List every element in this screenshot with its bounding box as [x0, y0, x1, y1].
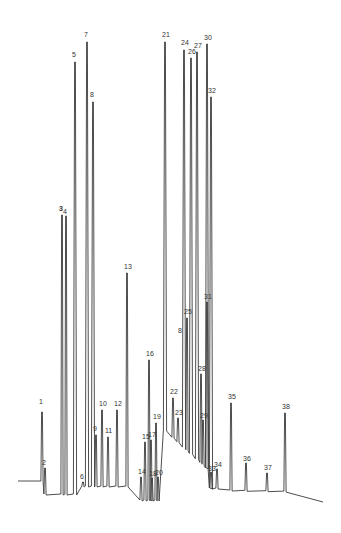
peak-label-6: 6 [80, 473, 84, 480]
peak-label-10: 10 [99, 400, 107, 407]
peak-label-23: 23 [175, 409, 183, 416]
peak-label-20: 20 [155, 469, 163, 476]
peak-label-13: 13 [124, 263, 132, 270]
chromatogram-trace [18, 42, 323, 502]
peak-label-11: 11 [105, 427, 112, 434]
peak-label-32: 32 [208, 87, 216, 94]
peak-label-1: 1 [39, 398, 43, 405]
peak-label-34: 34 [214, 461, 222, 468]
peak-label-21: 21 [162, 31, 170, 38]
peak-label-31: 31 [204, 293, 212, 300]
peak-label-7: 7 [84, 31, 88, 38]
peak-label-24: 24 [181, 39, 189, 46]
peak-label-35: 35 [228, 393, 236, 400]
peak-label-5: 5 [72, 51, 76, 58]
peak-label-8: 8 [90, 91, 94, 98]
peak-label-17: 17 [148, 431, 156, 438]
peak-label-12: 12 [114, 400, 122, 407]
peak-label-26: 26 [188, 48, 196, 55]
peak-label-25: 25 [184, 308, 192, 315]
chromatogram: 1234567891011121314151617181920212223242… [0, 0, 341, 533]
peak-label-22: 22 [170, 388, 178, 395]
peak-label-36: 36 [243, 455, 251, 462]
peak-label-37: 37 [264, 464, 272, 471]
peak-label-2: 2 [42, 459, 46, 466]
peak-label-14: 14 [138, 468, 146, 475]
peak-label-38: 38 [282, 403, 290, 410]
peak-label-19: 19 [153, 413, 161, 420]
peak-label-16: 16 [146, 350, 154, 357]
peak-label-9: 9 [93, 425, 97, 432]
peak-label-27: 27 [194, 42, 202, 49]
peak-label-29: 29 [200, 412, 208, 419]
peak-label-30: 30 [204, 34, 212, 41]
peak-label-8-secondary: 8 [178, 327, 182, 334]
peak-label-28: 28 [198, 365, 206, 372]
peak-label-4: 4 [63, 208, 67, 215]
